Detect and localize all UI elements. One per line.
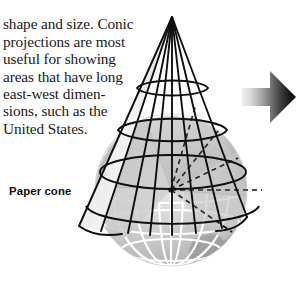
right-arrow-icon (240, 66, 298, 128)
figure-canvas: shape and size. Conic projections are mo… (0, 0, 300, 287)
body-paragraph: shape and size. Conic projections are mo… (3, 15, 148, 137)
paper-cone-label: Paper cone (9, 185, 71, 197)
